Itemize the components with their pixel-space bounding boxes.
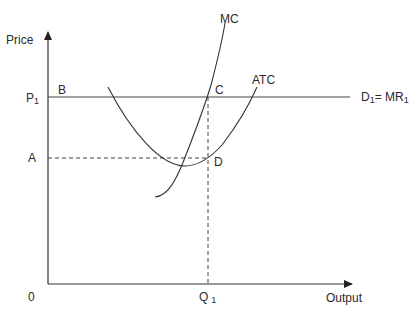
b-label: B [58, 84, 66, 96]
output-axis-label: Output [326, 292, 362, 304]
p1-label: P1 [26, 92, 39, 107]
d-label: D [214, 156, 223, 168]
mc-curve [155, 23, 225, 197]
a-label: A [28, 152, 36, 164]
demand-mr-label: D1= MR1 [361, 91, 409, 106]
origin-label: 0 [28, 291, 35, 303]
chart-canvas [0, 0, 420, 319]
atc-curve [108, 87, 257, 166]
mc-label: MC [220, 13, 239, 25]
q1-label: Q1 [199, 291, 216, 306]
c-label: C [215, 84, 224, 96]
atc-label: ATC [252, 74, 275, 86]
price-axis-label: Price [6, 34, 33, 46]
